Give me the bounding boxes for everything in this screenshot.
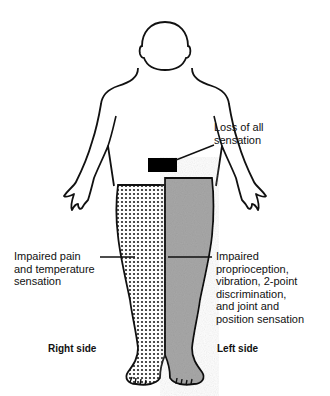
leader-loss-of-all (176, 145, 214, 160)
label-impaired-pain-temperature: Impaired pain and temperature sensation (14, 250, 95, 288)
label-loss-of-all-sensation: Loss of all sensation (214, 121, 264, 146)
label-impaired-proprioception: Impaired proprioception, vibration, 2-po… (216, 250, 304, 325)
label-left-side: Left side (217, 343, 258, 354)
left-leg-impaired-proprioception (165, 178, 214, 385)
loss-of-all-sensation-band (148, 158, 177, 172)
body-diagram (0, 0, 330, 396)
right-leg-impaired-pain-temp (117, 185, 166, 385)
label-right-side: Right side (48, 343, 96, 354)
head-outline (140, 22, 191, 70)
